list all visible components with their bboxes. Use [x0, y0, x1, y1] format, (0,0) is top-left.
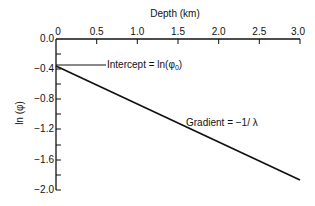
- x-tick-label: 3.0: [291, 26, 305, 37]
- y-tick-label: −0.8: [34, 93, 54, 104]
- x-tick-label: 2.5: [252, 26, 266, 37]
- x-tick-labels: 0 0.5 1.0 1.5 2.0 2.5 3.0: [55, 26, 305, 37]
- y-axis-title: ln (φ): [14, 101, 25, 125]
- y-tick-label: −1.6: [34, 154, 54, 165]
- gradient-annotation: Gradient = −1/ λ: [186, 117, 258, 128]
- x-tick-label: 1.0: [130, 26, 144, 37]
- x-tick-label: 0: [55, 26, 61, 37]
- y-ticks: [56, 54, 61, 190]
- chart: 0 0.5 1.0 1.5 2.0 2.5 3.0 0.0 −0.4 −0.8 …: [0, 0, 315, 206]
- y-tick-labels: 0.0 −0.4 −0.8 −1.2 −1.6 −2.0: [34, 33, 54, 195]
- y-tick-label: −0.4: [34, 63, 54, 74]
- x-axis-title: Depth (km): [150, 8, 199, 19]
- x-ticks: [97, 39, 300, 44]
- x-tick-label: 2.0: [212, 26, 226, 37]
- data-line: [56, 66, 300, 180]
- intercept-annotation: Intercept = ln(φ0): [107, 59, 182, 71]
- y-tick-label: −2.0: [34, 184, 54, 195]
- y-tick-label: −1.2: [34, 123, 54, 134]
- x-tick-label: 1.5: [171, 26, 185, 37]
- x-tick-label: 0.5: [90, 26, 104, 37]
- y-tick-label: 0.0: [40, 33, 54, 44]
